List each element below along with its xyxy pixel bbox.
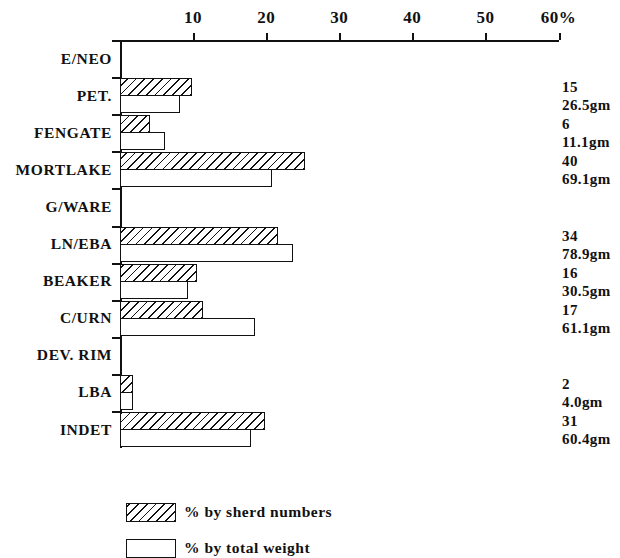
bar-sherd-numbers-1 (120, 78, 192, 96)
weight-value-2: 11.1gm (562, 134, 610, 151)
legend-swatch-open-icon (126, 539, 176, 558)
sherd-count-value-5: 34 (562, 227, 578, 244)
legend-swatch-hatched-icon (126, 503, 176, 522)
x-tick-10 (193, 33, 195, 40)
weight-value-6: 30.5gm (562, 282, 611, 299)
bar-total-weight-7 (120, 318, 255, 336)
bar-total-weight-10 (120, 429, 251, 447)
category-label-4: G/WARE (46, 198, 112, 216)
x-tick-30 (339, 33, 341, 40)
bar-sherd-numbers-6 (120, 264, 197, 282)
bar-sherd-numbers-2 (120, 115, 150, 133)
category-label-2: FENGATE (34, 124, 112, 142)
category-label-3: MORTLAKE (16, 161, 112, 179)
x-tick-40 (412, 33, 414, 40)
x-tick-60 (559, 33, 561, 40)
category-label-6: BEAKER (43, 272, 112, 290)
weight-value-7: 61.1gm (562, 319, 611, 336)
weight-value-9: 4.0gm (562, 393, 603, 410)
category-label-9: LBA (78, 383, 112, 401)
bar-total-weight-2 (120, 132, 165, 150)
x-tick-label-10: 10 (184, 8, 202, 28)
sherd-count-value-10: 31 (562, 413, 578, 430)
sherd-count-value-6: 16 (562, 264, 578, 281)
x-tick-label-40: 40 (403, 8, 421, 28)
category-label-8: DEV. RIM (37, 346, 112, 364)
bar-total-weight-5 (120, 244, 293, 262)
bar-total-weight-9 (120, 392, 133, 410)
sherd-count-value-2: 6 (562, 116, 570, 133)
legend-item-total-weight: % by total weight (126, 534, 332, 558)
category-label-7: C/URN (60, 309, 112, 327)
x-tick-label-50: 50 (476, 8, 494, 28)
bar-total-weight-1 (120, 95, 180, 113)
bar-sherd-numbers-3 (120, 152, 305, 170)
weight-value-10: 60.4gm (562, 431, 611, 448)
bar-sherd-numbers-10 (120, 412, 265, 430)
legend-label-sherd-numbers: % by sherd numbers (184, 503, 332, 521)
x-tick-label-60: 60% (541, 8, 577, 28)
weight-value-3: 69.1gm (562, 171, 611, 188)
chart-legend: % by sherd numbers % by total weight (126, 498, 332, 558)
x-tick-50 (485, 33, 487, 40)
bar-total-weight-3 (120, 169, 272, 187)
bar-chart: 102030405060% E/NEOPET.FENGATEMORTLAKEG/… (0, 0, 620, 558)
x-tick-label-30: 30 (330, 8, 348, 28)
sherd-count-value-1: 15 (562, 79, 578, 96)
category-label-10: INDET (60, 421, 112, 439)
y-tick-4 (112, 188, 121, 190)
bar-sherd-numbers-5 (120, 227, 278, 245)
sherd-count-value-3: 40 (562, 153, 578, 170)
category-label-5: LN/EBA (51, 235, 112, 253)
weight-value-1: 26.5gm (562, 97, 611, 114)
category-label-0: E/NEO (61, 50, 112, 68)
x-axis-line (120, 40, 559, 42)
y-tick-0 (112, 40, 121, 42)
bar-sherd-numbers-9 (120, 375, 133, 393)
legend-item-sherd-numbers: % by sherd numbers (126, 498, 332, 526)
sherd-count-value-9: 2 (562, 375, 570, 392)
sherd-count-value-7: 17 (562, 301, 578, 318)
category-label-1: PET. (77, 87, 112, 105)
bar-sherd-numbers-7 (120, 301, 203, 319)
bar-total-weight-6 (120, 281, 188, 299)
y-tick-8 (112, 337, 121, 339)
legend-label-total-weight: % by total weight (184, 539, 310, 557)
x-tick-20 (266, 33, 268, 40)
weight-value-5: 78.9gm (562, 245, 611, 262)
x-tick-label-20: 20 (257, 8, 275, 28)
